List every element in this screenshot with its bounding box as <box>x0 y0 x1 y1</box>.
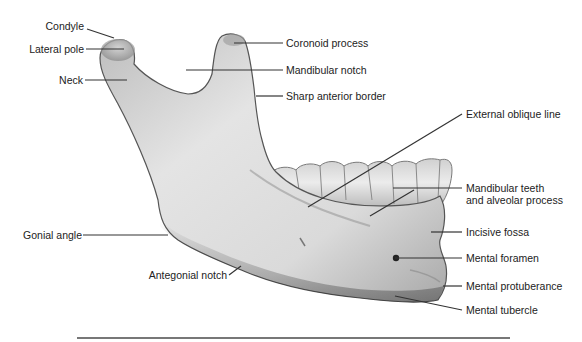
label-sharp-anterior-border: Sharp anterior border <box>286 90 386 102</box>
label-mental-foramen: Mental foramen <box>466 252 539 264</box>
label-antegonial-notch: Antegonial notch <box>130 269 227 281</box>
label-lateral-pole: Lateral pole <box>10 43 84 55</box>
label-mandibular-teeth-line2: and alveolar process <box>466 194 563 206</box>
mandible-diagram: Condyle Lateral pole Neck Gonial angle A… <box>0 0 582 342</box>
label-incisive-fossa: Incisive fossa <box>466 226 529 238</box>
label-mandibular-notch: Mandibular notch <box>286 64 367 76</box>
condyle-head <box>101 39 135 61</box>
label-mental-protuberance: Mental protuberance <box>466 280 562 292</box>
label-mandibular-teeth-line1: Mandibular teeth <box>466 182 563 194</box>
label-external-oblique-line: External oblique line <box>466 108 561 120</box>
coronoid-tip <box>223 34 245 46</box>
label-mental-tubercle: Mental tubercle <box>466 304 538 316</box>
label-condyle: Condyle <box>20 20 84 32</box>
label-gonial-angle: Gonial angle <box>10 229 82 241</box>
label-coronoid-process: Coronoid process <box>286 37 368 49</box>
label-neck: Neck <box>20 74 83 86</box>
label-mandibular-teeth: Mandibular teeth and alveolar process <box>466 182 563 206</box>
